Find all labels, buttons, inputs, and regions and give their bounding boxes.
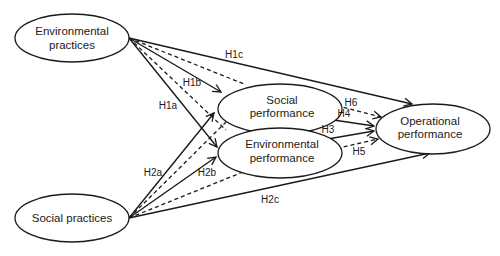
edge-label-h2a: H2a	[144, 167, 163, 178]
edge-label-h6: H6	[345, 97, 358, 108]
label-social-performance-line2: performance	[250, 107, 315, 119]
edge-label-h5: H5	[353, 146, 366, 157]
edge-label-h2c: H2c	[261, 194, 279, 205]
node-environmental-practices: Environmental practices	[15, 14, 129, 62]
label-operational-performance-line2: performance	[398, 128, 463, 140]
ellipse-environmental-practices	[15, 14, 129, 62]
node-operational-performance: Operational performance	[376, 104, 490, 154]
label-environmental-performance-line2: performance	[250, 152, 315, 164]
research-model-diagram: Environmental practices Social practices…	[0, 0, 500, 256]
label-social-performance-line1: Social	[266, 94, 297, 106]
edge-h1a	[129, 38, 217, 147]
edge-h1b	[129, 38, 221, 92]
edge-label-h3: H3	[322, 124, 335, 135]
edge-label-h1a: H1a	[159, 100, 178, 111]
node-social-practices: Social practices	[15, 194, 129, 242]
node-environmental-performance: Environmental performance	[218, 128, 342, 178]
label-environmental-performance-line1: Environmental	[245, 138, 319, 150]
label-social-practices: Social practices	[32, 212, 113, 224]
edge-label-h1c: H1c	[225, 49, 243, 60]
label-operational-performance-line1: Operational	[400, 115, 459, 127]
label-environmental-practices-line1: Environmental	[35, 25, 109, 37]
edge-label-h4: H4	[338, 108, 351, 119]
edge-label-h2b: H2b	[198, 167, 217, 178]
label-environmental-practices-line2: practices	[49, 39, 95, 51]
edge-soc-practices-env-performance-dashed	[129, 172, 243, 218]
edge-label-h1b: H1b	[183, 77, 202, 88]
